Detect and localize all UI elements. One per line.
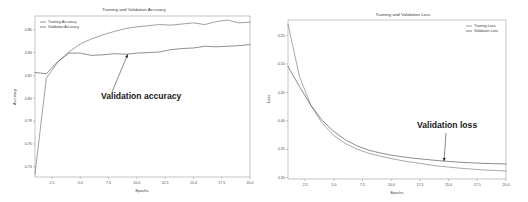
- x-tick-label: 10.0: [133, 181, 140, 185]
- loss-chart-panel: Training and Validation Loss 2.55.07.510…: [264, 0, 528, 202]
- loss-plot-frame: [288, 20, 506, 179]
- y-tick-label: 0.74: [25, 165, 32, 169]
- y-tick-label: 0.55: [278, 34, 285, 38]
- loss-series-group: [288, 24, 506, 171]
- loss-chart-svg: Training and Validation Loss 2.55.07.510…: [264, 0, 528, 202]
- y-tick-label: 0.78: [25, 119, 32, 123]
- legend-label: Training Loss: [474, 24, 496, 28]
- annotation-arrow-line: [112, 54, 128, 92]
- accuracy-chart-panel: Training and Validation Accuracy 2.55.07…: [0, 0, 264, 202]
- accuracy-annotation-group: [112, 54, 128, 92]
- legend-label: Validation Loss: [474, 29, 498, 33]
- series-line-validation-loss: [288, 67, 506, 164]
- annotation-arrow-line: [444, 133, 446, 161]
- y-tick-label: 0.80: [25, 97, 32, 101]
- y-tick-label: 0.86: [25, 28, 32, 32]
- accuracy-x-axis-label: Epochs: [136, 188, 149, 193]
- y-tick-label: 0.45: [278, 91, 285, 95]
- x-tick-label: 17.5: [218, 181, 225, 185]
- series-line-training-loss: [288, 24, 506, 171]
- x-tick-label: 12.5: [416, 183, 423, 187]
- accuracy-legend: Training AccuracyValidation Accuracy: [40, 20, 79, 29]
- accuracy-y-axis-label: Accuracy: [12, 89, 17, 105]
- loss-annotation-group: [443, 133, 446, 161]
- y-tick-label: 0.76: [25, 142, 32, 146]
- x-tick-label: 5.0: [78, 181, 83, 185]
- series-line-validation-accuracy: [35, 45, 250, 74]
- x-tick-label: 15.0: [190, 181, 197, 185]
- legend-label: Validation Accuracy: [48, 25, 79, 29]
- x-tick-label: 5.0: [331, 183, 336, 187]
- x-tick-label: 20.0: [247, 181, 254, 185]
- x-tick-label: 17.5: [474, 183, 481, 187]
- legend-label: Training Accuracy: [48, 20, 77, 24]
- loss-x-axis-label: Epochs: [391, 190, 404, 195]
- x-tick-label: 2.5: [49, 181, 54, 185]
- x-tick-label: 2.5: [303, 183, 308, 187]
- y-tick-label: 0.40: [278, 119, 285, 123]
- loss-y-axis-label: Loss: [266, 95, 271, 103]
- loss-legend: Training LossValidation Loss: [466, 24, 498, 33]
- accuracy-chart-title: Training and Validation Accuracy: [102, 7, 166, 12]
- accuracy-chart-svg: Training and Validation Accuracy 2.55.07…: [0, 0, 264, 202]
- y-tick-label: 0.35: [278, 147, 285, 151]
- validation-accuracy-annotation-label: Validation accuracy: [101, 91, 181, 101]
- y-tick-label: 0.82: [25, 74, 32, 78]
- x-tick-label: 10.0: [388, 183, 395, 187]
- loss-axis-ticks: 2.55.07.510.012.515.017.520.00.300.350.4…: [278, 34, 510, 187]
- x-tick-label: 12.5: [162, 181, 169, 185]
- x-tick-label: 7.5: [360, 183, 365, 187]
- y-tick-label: 0.84: [25, 51, 32, 55]
- x-tick-label: 15.0: [445, 183, 452, 187]
- y-tick-label: 0.30: [278, 176, 285, 180]
- x-tick-label: 7.5: [106, 181, 111, 185]
- validation-loss-annotation-label: Validation loss: [417, 120, 477, 130]
- loss-chart-title: Training and Validation Loss: [376, 12, 432, 17]
- x-tick-label: 20.0: [503, 183, 510, 187]
- accuracy-axis-ticks: 2.55.07.510.012.515.017.520.00.740.760.7…: [25, 28, 254, 185]
- charts-board: Training and Validation Accuracy 2.55.07…: [0, 0, 528, 202]
- y-tick-label: 0.50: [278, 62, 285, 66]
